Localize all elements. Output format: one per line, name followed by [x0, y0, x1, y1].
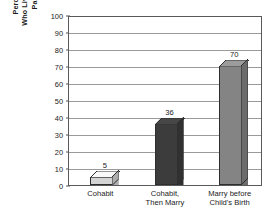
plot-area: 53670 — [68, 16, 262, 186]
y-tick-label: 100 — [51, 12, 63, 21]
y-tick-label: 50 — [55, 97, 63, 106]
bar — [219, 59, 249, 185]
y-tick-label: 20 — [55, 148, 63, 157]
x-axis-labels: CohabitCohabit,Then MarryMarry beforeChi… — [68, 189, 262, 219]
x-tick-label: Cohabit,Then Marry — [146, 189, 185, 208]
bar-value-label: 70 — [230, 50, 238, 59]
x-tick-label-line: Child's Birth — [208, 198, 251, 207]
y-tick-label: 90 — [55, 29, 63, 38]
x-tick-label: Marry beforeChild's Birth — [208, 189, 251, 208]
x-tick-label-line: Cohabit — [87, 189, 113, 198]
y-axis-title-line-3: Parents until Age 18 — [30, 0, 40, 9]
x-tick-label-line: Marry before — [208, 189, 251, 198]
y-axis-title-line-2: Who Live with Two Biological — [20, 0, 30, 26]
bar — [90, 170, 120, 186]
gridline — [69, 33, 261, 34]
bar-front-face — [219, 66, 242, 185]
bar-side-outline — [241, 59, 248, 185]
y-tick-label: 70 — [55, 63, 63, 72]
bar — [155, 117, 185, 185]
bar-front-face — [155, 124, 178, 185]
y-tick-label: 80 — [55, 46, 63, 55]
bar-chart: Percentage of Children Who Live with Two… — [0, 0, 272, 221]
y-tick-label: 10 — [55, 165, 63, 174]
y-axis-title-line-1: Percentage of Children — [11, 0, 21, 14]
x-tick-label-line: Cohabit, — [146, 189, 185, 198]
bar-side-outline — [177, 117, 184, 185]
x-tick-label: Cohabit — [87, 189, 113, 198]
y-axis-title: Percentage of Children Who Live with Two… — [8, 0, 42, 54]
y-tick-label: 0 — [59, 182, 63, 191]
bar-value-label: 5 — [103, 161, 107, 170]
bar-side-outline — [112, 170, 119, 186]
y-axis-ticks: 0102030405060708090100 — [44, 16, 66, 186]
y-tick-label: 60 — [55, 80, 63, 89]
y-tick-label: 30 — [55, 131, 63, 140]
bar-front-face — [90, 177, 113, 186]
bar-value-label: 36 — [165, 108, 173, 117]
x-tick-label-line: Then Marry — [146, 198, 185, 207]
y-tick-label: 40 — [55, 114, 63, 123]
